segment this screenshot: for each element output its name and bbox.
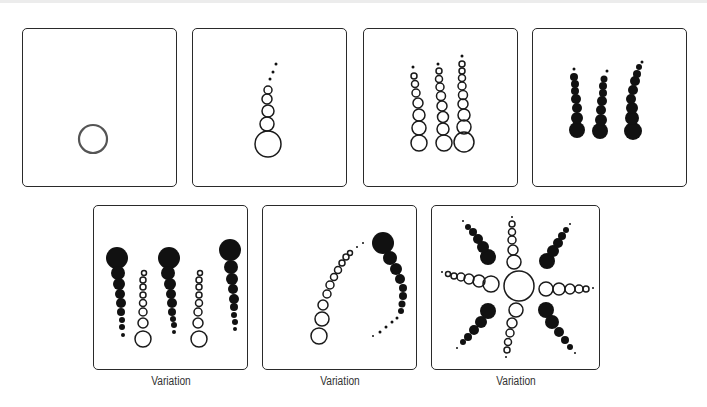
panel-step-2 (192, 28, 347, 187)
panel-step-3 (363, 28, 518, 187)
panel-variation-3 (431, 205, 600, 370)
panel-variation-1 (93, 205, 248, 370)
top-edge-bar (0, 0, 707, 3)
bubble-drawing-icon (23, 29, 178, 188)
bubble-drawing-icon (533, 29, 688, 188)
panel-step-4 (532, 28, 687, 187)
panel-step-1 (22, 28, 177, 187)
bubble-drawing-icon (432, 206, 601, 371)
panel-variation-2 (262, 205, 417, 370)
caption-variation-1: Variation (103, 374, 239, 388)
bubble-drawing-icon (364, 29, 519, 188)
bubble-drawing-icon (94, 206, 249, 371)
caption-variation-3: Variation (448, 374, 584, 388)
bubble-drawing-icon (193, 29, 348, 188)
caption-variation-2: Variation (272, 374, 408, 388)
bubble-drawing-icon (263, 206, 418, 371)
